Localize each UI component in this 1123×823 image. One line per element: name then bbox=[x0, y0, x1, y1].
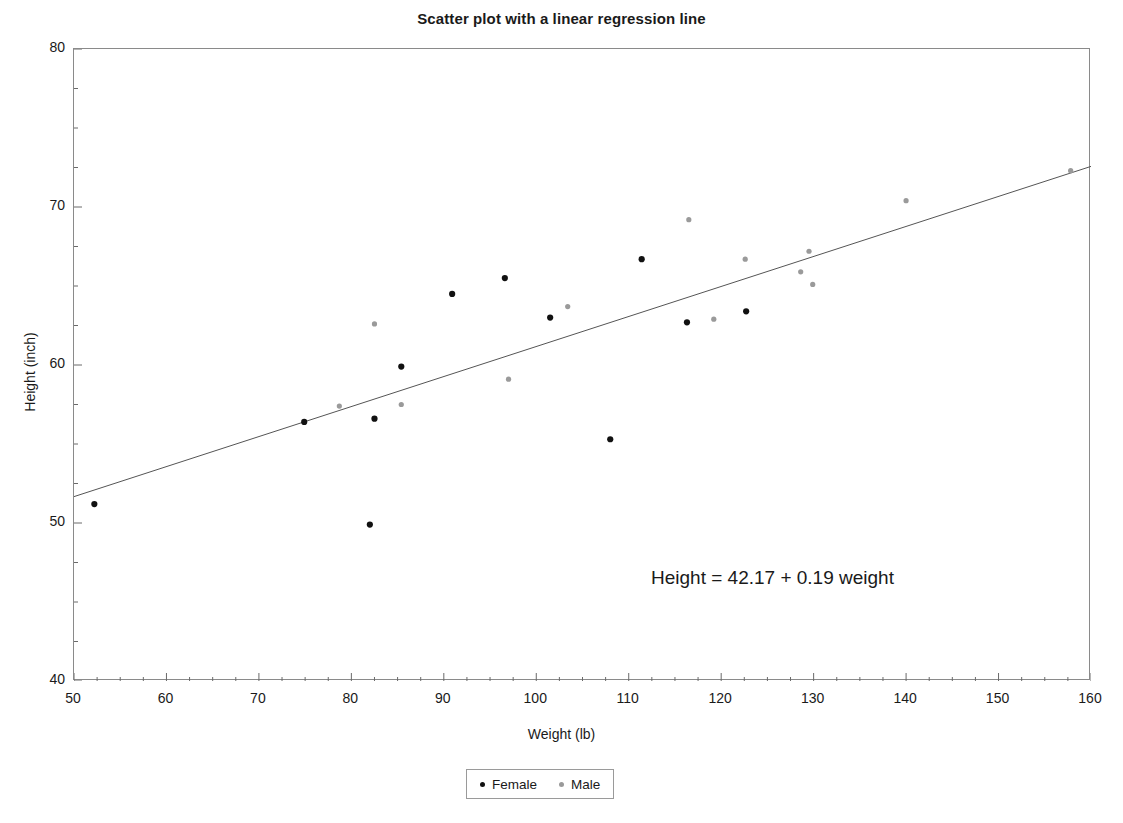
x-tick-label: 80 bbox=[320, 690, 380, 706]
x-tick-label: 50 bbox=[43, 690, 103, 706]
data-point bbox=[502, 275, 508, 281]
data-point bbox=[806, 249, 811, 254]
data-point bbox=[798, 269, 803, 274]
x-tick-label: 90 bbox=[413, 690, 473, 706]
x-tick-label: 110 bbox=[598, 690, 658, 706]
x-tick-label: 140 bbox=[875, 690, 935, 706]
x-tick-label: 120 bbox=[690, 690, 750, 706]
data-point bbox=[399, 402, 404, 407]
axis-ticks bbox=[74, 49, 1091, 681]
data-point bbox=[686, 217, 691, 222]
regression-equation-annotation: Height = 42.17 + 0.19 weight bbox=[651, 567, 894, 589]
x-tick-label: 70 bbox=[228, 690, 288, 706]
data-point bbox=[711, 317, 716, 322]
plot-canvas bbox=[74, 49, 1091, 681]
y-tick-label: 70 bbox=[15, 197, 65, 213]
data-point bbox=[398, 363, 404, 369]
y-axis-title: Height (inch) bbox=[22, 272, 38, 472]
legend-entry-female[interactable]: Female bbox=[480, 777, 537, 792]
x-tick-label: 160 bbox=[1060, 690, 1120, 706]
x-tick-label: 150 bbox=[968, 690, 1028, 706]
chart-title: Scatter plot with a linear regression li… bbox=[0, 10, 1123, 27]
data-point bbox=[301, 419, 307, 425]
chart-figure: Scatter plot with a linear regression li… bbox=[0, 0, 1123, 823]
data-point bbox=[547, 315, 553, 321]
data-point bbox=[506, 377, 511, 382]
series-male bbox=[337, 168, 1074, 409]
x-axis-title: Weight (lb) bbox=[0, 726, 1123, 742]
data-point bbox=[903, 198, 908, 203]
data-point bbox=[91, 501, 97, 507]
x-tick-label: 130 bbox=[783, 690, 843, 706]
y-tick-label: 60 bbox=[15, 355, 65, 371]
legend-label: Male bbox=[571, 777, 600, 792]
data-point bbox=[449, 291, 455, 297]
data-point bbox=[607, 436, 613, 442]
data-point bbox=[337, 403, 342, 408]
data-point bbox=[1068, 168, 1073, 173]
plot-area bbox=[73, 48, 1090, 680]
series-female bbox=[91, 256, 749, 528]
chart-legend: FemaleMale bbox=[466, 769, 614, 799]
x-tick-label: 60 bbox=[135, 690, 195, 706]
data-point bbox=[743, 308, 749, 314]
data-point bbox=[743, 257, 748, 262]
data-point bbox=[639, 256, 645, 262]
legend-marker-icon bbox=[480, 782, 485, 787]
y-tick-label: 80 bbox=[15, 39, 65, 55]
data-point bbox=[684, 319, 690, 325]
legend-marker-icon bbox=[559, 782, 564, 787]
x-tick-label: 100 bbox=[505, 690, 565, 706]
data-point bbox=[371, 416, 377, 422]
legend-label: Female bbox=[492, 777, 537, 792]
data-point bbox=[810, 282, 815, 287]
data-point bbox=[372, 321, 377, 326]
y-tick-label: 40 bbox=[15, 671, 65, 687]
data-point bbox=[367, 521, 373, 527]
regression-line bbox=[74, 166, 1091, 496]
legend-entry-male[interactable]: Male bbox=[559, 777, 600, 792]
data-point bbox=[565, 304, 570, 309]
y-tick-label: 50 bbox=[15, 513, 65, 529]
